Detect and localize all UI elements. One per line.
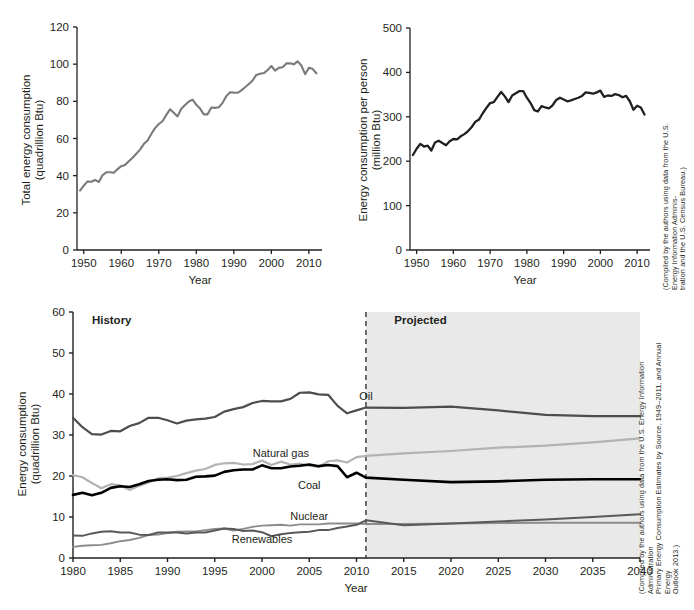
x-tick-label: 2000 — [249, 565, 275, 577]
series-label-oil: Oil — [359, 390, 372, 402]
x-tick-label: 1970 — [477, 257, 503, 269]
y-tick-label: 50 — [52, 347, 65, 359]
series-label-nuclear: Nuclear — [290, 510, 328, 522]
y-tick-label: 400 — [383, 66, 402, 78]
x-tick-label: 1960 — [441, 257, 467, 269]
caption-top-right: (Compiled by the authors using data from… — [662, 104, 688, 290]
y-axis-title-line1: Total energy consumption — [20, 74, 32, 205]
series-label-natural-gas: Natural gas — [253, 447, 310, 459]
y-tick-label: 300 — [383, 111, 402, 123]
x-tick-label: 1990 — [155, 565, 181, 577]
y-tick-label: 0 — [59, 552, 65, 564]
caption-bottom: (Compiled by the authors using data from… — [638, 332, 681, 594]
x-tick-label: 1990 — [551, 257, 577, 269]
x-tick-label: 1970 — [146, 257, 172, 269]
y-tick-label: 200 — [383, 155, 402, 167]
y-axis-title-line2: (million Btu) — [370, 109, 382, 170]
x-axis-title: Year — [344, 582, 367, 594]
history-label: History — [92, 314, 132, 326]
y-tick-label: 60 — [52, 306, 65, 318]
x-axis-title: Year — [188, 274, 211, 286]
panel-energy-consumption-by-source: 0102030405060198019851990199520002005201… — [0, 296, 694, 610]
y-tick-label: 0 — [396, 244, 402, 256]
chart-total-energy-consumption: 0204060801001201950196019701980199020002… — [0, 0, 345, 290]
y-tick-label: 10 — [52, 511, 65, 523]
y-axis-title-line2: (quadrillion Btu) — [33, 100, 45, 181]
figure-container: 0204060801001201950196019701980199020002… — [0, 0, 694, 610]
x-tick-label: 1990 — [221, 257, 247, 269]
x-tick-label: 2005 — [296, 565, 322, 577]
x-tick-label: 2010 — [296, 257, 322, 269]
x-tick-label: 2000 — [259, 257, 285, 269]
panel-total-energy-consumption: 0204060801001201950196019701980199020002… — [0, 0, 345, 290]
y-tick-label: 20 — [52, 470, 65, 482]
y-tick-label: 60 — [56, 133, 69, 145]
y-tick-label: 30 — [52, 429, 65, 441]
x-tick-label: 2000 — [588, 257, 614, 269]
x-tick-label: 1995 — [202, 565, 228, 577]
chart-energy-consumption-by-source: 0102030405060198019851990199520002005201… — [0, 296, 694, 610]
x-tick-label: 1960 — [108, 257, 134, 269]
y-tick-label: 120 — [50, 21, 69, 33]
x-tick-label: 2010 — [344, 565, 370, 577]
projected-label: Projected — [394, 314, 446, 326]
x-axis-title: Year — [513, 274, 536, 286]
chart-energy-consumption-per-person: 0100200300400500195019601970198019902000… — [345, 0, 694, 290]
y-tick-label: 20 — [56, 207, 69, 219]
x-tick-label: 1980 — [60, 565, 86, 577]
x-tick-label: 1985 — [107, 565, 133, 577]
y-tick-label: 80 — [56, 95, 69, 107]
x-tick-label: 2035 — [580, 565, 606, 577]
x-tick-label: 2025 — [485, 565, 511, 577]
x-tick-label: 2010 — [624, 257, 650, 269]
y-tick-label: 100 — [383, 200, 402, 212]
y-axis-title-line2: (quadrillion Btu) — [29, 404, 41, 485]
x-tick-label: 1950 — [71, 257, 97, 269]
y-tick-label: 100 — [50, 58, 69, 70]
x-tick-label: 1980 — [514, 257, 540, 269]
y-tick-label: 40 — [52, 388, 65, 400]
x-tick-label: 2030 — [533, 565, 559, 577]
x-tick-label: 1980 — [184, 257, 210, 269]
series-label-coal: Coal — [298, 479, 321, 491]
y-axis-title-line1: Energy consumption — [16, 392, 28, 497]
series-line-total-energy — [80, 61, 316, 190]
series-line-per-person — [413, 91, 645, 155]
x-tick-label: 1950 — [404, 257, 430, 269]
series-label-renewables: Renewables — [232, 533, 293, 545]
panel-energy-consumption-per-person: 0100200300400500195019601970198019902000… — [345, 0, 694, 290]
x-tick-label: 2015 — [391, 565, 417, 577]
y-tick-label: 40 — [56, 170, 69, 182]
y-axis-title-line1: Energy consumption per person — [357, 58, 369, 221]
y-tick-label: 0 — [63, 244, 69, 256]
y-tick-label: 500 — [383, 22, 402, 34]
x-tick-label: 2020 — [438, 565, 464, 577]
